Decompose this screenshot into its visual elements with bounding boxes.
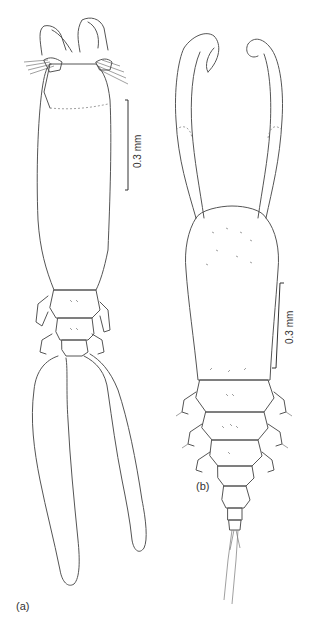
specimen-drawings: [0, 0, 324, 630]
panel-label-b: (b): [196, 480, 209, 492]
scale-bar-a-label: 0.3 mm: [132, 135, 143, 168]
panel-label-a: (a): [16, 600, 29, 612]
scale-bar-a: [125, 100, 128, 190]
scale-bar-b-label: 0.3 mm: [284, 311, 295, 344]
copepod-figure: 0.3 mm 0.3 mm (a) (b): [0, 0, 324, 630]
specimen-b: [175, 34, 292, 604]
